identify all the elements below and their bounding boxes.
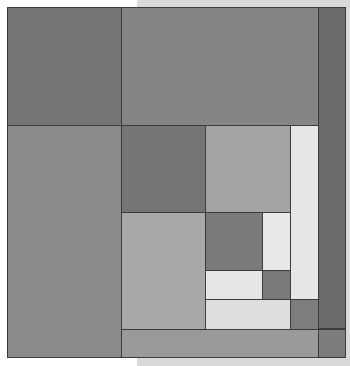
tile-inner-dark-1 <box>121 125 206 213</box>
tile-inner-mid-2 <box>121 212 206 330</box>
tile-left-column <box>7 125 122 358</box>
tile-bottom-corner <box>318 329 346 358</box>
tile-top-right <box>121 7 319 126</box>
tile-inner-dark-4 <box>290 299 319 330</box>
tile-bottom-strip <box>121 329 319 358</box>
tile-inner-light-2 <box>262 212 291 271</box>
tile-right-column <box>318 7 346 329</box>
tile-inner-light-1 <box>290 125 319 300</box>
tile-inner-mid-1 <box>205 125 291 213</box>
tile-top-left <box>7 7 122 126</box>
tile-inner-dark-2 <box>205 212 263 271</box>
tile-inner-light-3 <box>205 270 263 300</box>
tile-inner-dark-3 <box>262 270 291 300</box>
tile-inner-light-4 <box>205 299 291 330</box>
